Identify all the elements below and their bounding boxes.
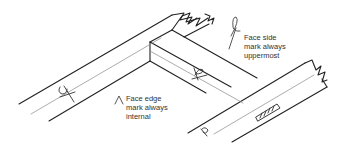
face-side-line-1: Face side (244, 33, 286, 42)
face-side-line-3: uppermost (244, 51, 286, 60)
face-edge-line-3: internal (126, 112, 168, 121)
face-mark-left-rail (59, 86, 75, 102)
right-rail (188, 60, 327, 142)
frame-diagram (0, 0, 338, 150)
face-edge-line-1: Face edge (126, 94, 168, 103)
mortise-stamp (256, 104, 280, 121)
face-side-mark-icon (229, 17, 240, 49)
face-mark-right-rail (201, 128, 208, 136)
face-edge-mark-icon (115, 96, 123, 104)
face-edge-line-2: mark always (126, 103, 168, 112)
left-rail (19, 13, 210, 121)
face-side-annotation: Face side mark always uppermost (244, 33, 286, 60)
face-edge-annotation: Face edge mark always internal (126, 94, 168, 121)
face-side-line-2: mark always (244, 42, 286, 51)
face-mark-crossbar (192, 68, 207, 80)
